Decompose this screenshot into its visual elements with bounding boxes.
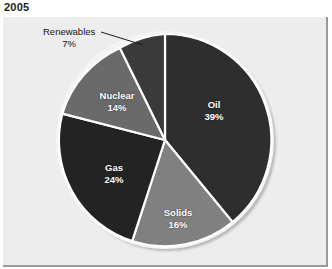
pie-label-renewables-name: Renewables [43,26,95,37]
page-title: 2005 [4,1,29,14]
pie-label-renewables: Renewables 7% [43,26,95,50]
chart-frame: Oil 39% Solids 16% Gas 24% Nuclear 14% R… [3,17,328,267]
renewables-leader-line [3,17,328,267]
pie-label-renewables-value: 7% [43,38,95,50]
